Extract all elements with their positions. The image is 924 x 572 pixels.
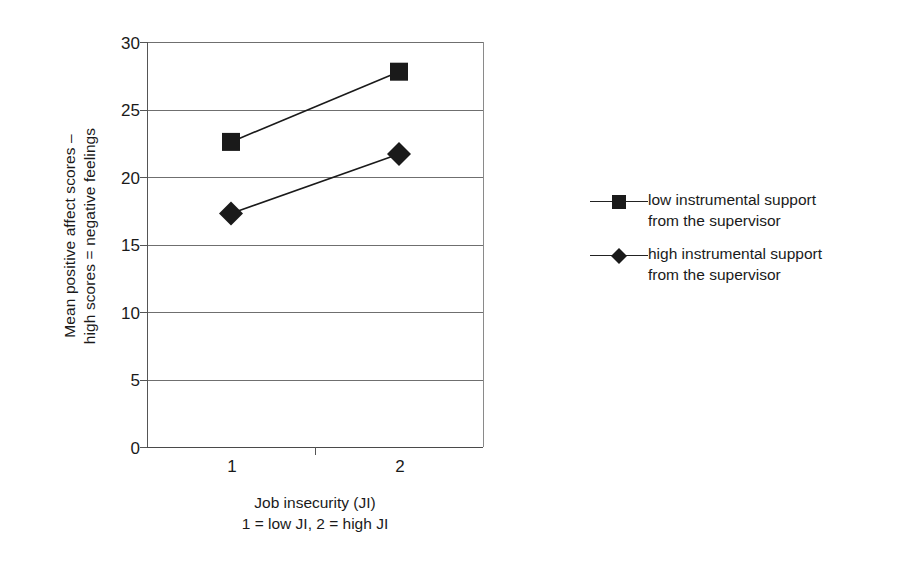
- y-axis-title: Mean positive affect scores – high score…: [57, 26, 103, 446]
- legend-entry-low-support[interactable]: low instrumental support from the superv…: [590, 190, 910, 232]
- legend-key-diamond: [590, 245, 648, 267]
- square-marker-icon: [610, 193, 628, 215]
- legend-label-high-support: high instrumental support from the super…: [648, 244, 822, 286]
- data-point-marker[interactable]: [222, 133, 240, 151]
- data-point-marker[interactable]: [387, 142, 411, 166]
- y-tick-label-30: 30: [98, 35, 140, 52]
- y-tick-mark-30: [140, 42, 147, 43]
- plot-area: [147, 42, 483, 447]
- legend-label-low-support-line-2: from the supervisor: [648, 211, 816, 232]
- y-tick-mark-20: [140, 177, 147, 178]
- x-tick-label-1: 1: [202, 458, 262, 475]
- y-tick-label-25: 25: [98, 102, 140, 119]
- x-axis-title-note: 1 = low JI, 2 = high JI: [147, 513, 483, 534]
- series-plot: [147, 42, 483, 447]
- y-tick-mark-25: [140, 110, 147, 111]
- y-tick-label-0: 0: [98, 440, 140, 457]
- x-axis-title: Job insecurity (JI) 1 = low JI, 2 = high…: [147, 492, 483, 535]
- y-tick-label-20: 20: [98, 170, 140, 187]
- y-tick-mark-5: [140, 380, 147, 381]
- y-tick-label-5: 5: [98, 372, 140, 389]
- data-point-marker[interactable]: [390, 63, 408, 81]
- y-tick-mark-0: [140, 447, 147, 448]
- x-tick-mark-mid: [315, 447, 316, 455]
- legend: low instrumental support from the superv…: [590, 190, 910, 298]
- y-tick-mark-15: [140, 245, 147, 246]
- legend-key-square: [590, 191, 648, 213]
- x-axis-title-main: Job insecurity (JI): [147, 492, 483, 513]
- y-axis-title-line-1: Mean positive affect scores –: [60, 134, 80, 337]
- legend-label-low-support-line-1: low instrumental support: [648, 190, 816, 211]
- y-tick-mark-10: [140, 312, 147, 313]
- series-line-2: [231, 154, 399, 213]
- y-tick-label-15: 15: [98, 237, 140, 254]
- x-tick-label-2: 2: [370, 458, 430, 475]
- series-line-1: [231, 72, 399, 142]
- line-chart-figure: Mean positive affect scores – high score…: [0, 0, 924, 572]
- legend-label-low-support: low instrumental support from the superv…: [648, 190, 816, 232]
- legend-label-high-support-line-1: high instrumental support: [648, 244, 822, 265]
- plot-right-border: [483, 42, 484, 447]
- diamond-marker-icon: [610, 247, 628, 269]
- legend-entry-high-support[interactable]: high instrumental support from the super…: [590, 244, 910, 286]
- legend-label-high-support-line-2: from the supervisor: [648, 265, 822, 286]
- data-point-marker[interactable]: [219, 201, 243, 225]
- y-tick-label-10: 10: [98, 305, 140, 322]
